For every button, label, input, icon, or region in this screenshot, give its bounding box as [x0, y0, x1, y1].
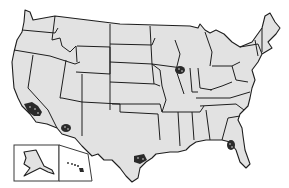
cluster-northern-illinois — [175, 66, 185, 74]
alaska-inset — [14, 145, 59, 181]
cluster-central-florida — [227, 140, 235, 150]
cluster-southern-arizona — [61, 124, 71, 132]
us-map — [0, 0, 289, 188]
